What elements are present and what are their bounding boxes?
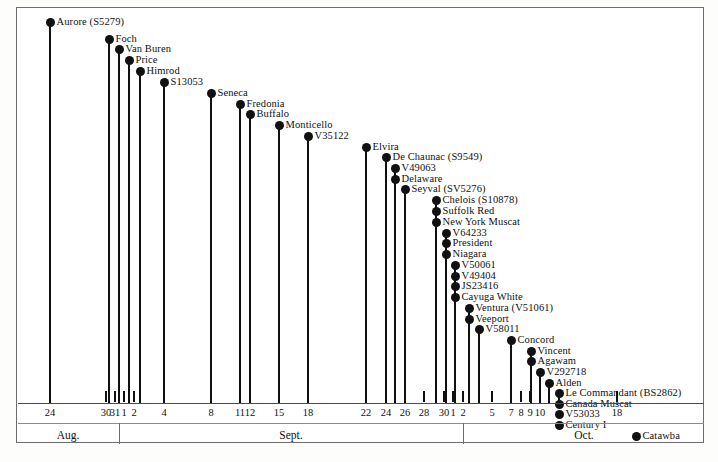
data-point-marker[interactable]	[507, 336, 516, 345]
data-point-marker[interactable]	[401, 185, 410, 194]
data-point-marker[interactable]	[362, 143, 371, 152]
data-point-marker[interactable]	[432, 207, 441, 216]
x-axis-day-label: 8	[199, 407, 223, 418]
data-point-label: V58011	[486, 324, 520, 335]
x-axis-tick	[491, 391, 493, 402]
data-point-marker[interactable]	[527, 347, 536, 356]
x-axis-tick	[307, 391, 309, 402]
x-axis-tick	[423, 391, 425, 402]
data-point-stem	[278, 125, 280, 403]
x-axis-tick	[239, 391, 241, 402]
data-point-label: Price	[136, 55, 158, 66]
data-point-marker[interactable]	[555, 410, 564, 419]
data-point-marker[interactable]	[465, 304, 474, 313]
data-point-marker[interactable]	[275, 121, 284, 130]
data-point-stem	[435, 222, 437, 403]
x-axis-day-label: 2	[451, 407, 475, 418]
data-point-label: Suffolk Red	[443, 206, 495, 217]
x-axis-month-label: Aug.	[28, 429, 108, 441]
data-point-marker[interactable]	[451, 272, 460, 281]
data-point-marker[interactable]	[545, 379, 554, 388]
data-point-stem	[404, 189, 406, 403]
data-point-marker[interactable]	[304, 132, 313, 141]
data-point-stem	[478, 329, 480, 403]
data-point-marker[interactable]	[527, 357, 536, 366]
data-point-marker[interactable]	[451, 293, 460, 302]
x-axis-tick	[452, 391, 454, 402]
x-axis-tick	[365, 391, 367, 402]
data-point-marker[interactable]	[432, 196, 441, 205]
data-point-label: Seyval (SV5276)	[412, 184, 486, 195]
data-point-marker[interactable]	[465, 315, 474, 324]
data-point-stem	[163, 82, 165, 403]
x-axis-day-label: 12	[238, 407, 262, 418]
data-point-stem	[307, 136, 309, 403]
x-axis-day-label: 18	[605, 407, 629, 418]
data-point-marker[interactable]	[555, 389, 564, 398]
chart-figure: Aurore (S5279)FochVan BurenPriceHimrodS1…	[0, 0, 718, 462]
data-point-marker[interactable]	[246, 110, 255, 119]
data-point-marker[interactable]	[160, 78, 169, 87]
data-point-label: Agawam	[538, 356, 577, 367]
data-point-label: President	[453, 238, 493, 249]
x-axis-tick	[49, 391, 51, 402]
data-point-stem	[394, 179, 396, 403]
x-axis-day-label: 2	[122, 407, 146, 418]
x-axis-month-label: Sept.	[251, 429, 331, 441]
data-point-marker[interactable]	[432, 218, 441, 227]
data-point-marker[interactable]	[632, 432, 641, 441]
data-point-marker[interactable]	[391, 175, 400, 184]
data-point-label: Van Buren	[126, 44, 172, 55]
x-axis-tick	[462, 391, 464, 402]
data-point-stem	[210, 93, 212, 403]
data-point-marker[interactable]	[442, 229, 451, 238]
x-axis-tick	[510, 391, 512, 402]
x-axis-line	[18, 403, 704, 404]
data-point-marker[interactable]	[115, 45, 124, 54]
x-axis-tick	[385, 391, 387, 402]
plot-area: Aurore (S5279)FochVan BurenPriceHimrodS1…	[17, 8, 703, 442]
data-point-marker[interactable]	[442, 239, 451, 248]
data-point-stem	[108, 39, 110, 403]
data-point-marker[interactable]	[451, 261, 460, 270]
data-point-label: Concord	[518, 335, 555, 346]
data-point-marker[interactable]	[536, 368, 545, 377]
data-point-label: Seneca	[218, 88, 248, 99]
data-point-marker[interactable]	[382, 153, 391, 162]
data-point-label: Himrod	[147, 66, 180, 77]
x-axis-tick	[163, 391, 165, 402]
data-point-stem	[118, 49, 120, 403]
data-point-label: V50061	[462, 260, 496, 271]
data-point-stem	[49, 22, 51, 403]
x-axis-day-label: 24	[38, 407, 62, 418]
data-point-marker[interactable]	[236, 100, 245, 109]
x-axis-day-label: 18	[296, 407, 320, 418]
x-axis-tick	[210, 391, 212, 402]
x-axis-tick	[114, 391, 116, 402]
data-point-label: Le Commandant (BS2862)	[566, 388, 682, 399]
data-point-stem	[385, 157, 387, 403]
chart-outer-frame: Aurore (S5279)FochVan BurenPriceHimrodS1…	[16, 7, 704, 443]
data-point-label: Cayuga White	[462, 292, 523, 303]
data-point-marker[interactable]	[46, 18, 55, 27]
x-axis-day-label: 4	[152, 407, 176, 418]
data-point-marker[interactable]	[391, 164, 400, 173]
data-point-marker[interactable]	[207, 89, 216, 98]
data-point-label: Catawba	[643, 431, 680, 442]
data-point-label: Chelois (S10878)	[443, 195, 518, 206]
data-point-stem	[365, 147, 367, 403]
data-point-label: V292718	[547, 367, 587, 378]
data-point-label: Ventura (V51061)	[476, 303, 554, 314]
data-point-marker[interactable]	[442, 250, 451, 259]
data-point-label: V53033	[566, 409, 600, 420]
data-point-marker[interactable]	[125, 56, 134, 65]
data-point-label: V49063	[402, 163, 436, 174]
data-point-stem	[454, 297, 456, 403]
data-point-stem	[139, 71, 141, 403]
data-point-marker[interactable]	[451, 282, 460, 291]
x-axis-tick	[529, 391, 531, 402]
data-point-marker[interactable]	[475, 325, 484, 334]
data-point-marker[interactable]	[136, 67, 145, 76]
x-axis-tick	[123, 391, 125, 402]
data-point-marker[interactable]	[105, 35, 114, 44]
